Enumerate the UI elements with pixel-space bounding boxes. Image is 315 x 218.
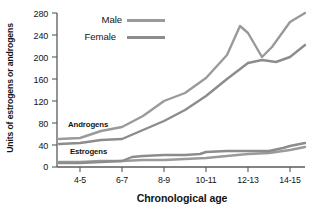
- series-line-male-androgens: [59, 13, 305, 139]
- axis-lines: [52, 13, 305, 172]
- hormone-levels-chart: Units of estrogens or androgens Chronolo…: [0, 0, 315, 218]
- chart-plot-area: [0, 0, 315, 218]
